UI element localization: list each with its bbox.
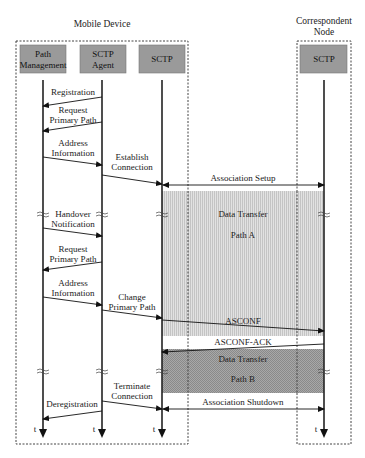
label-handover-notification-l2: Notification [51,219,95,229]
label-address-information-1-l1: Address [58,138,88,148]
label-request-primary-path-1-l1: Request [59,105,88,115]
label-address-information-2-l1: Address [58,278,88,288]
label-path-b-l1: Data Transfer [218,354,267,364]
svg-text:Agent: Agent [92,60,114,70]
label-establish-connection-l2: Connection [111,162,153,172]
label-path-a-l2: Path A [231,230,256,240]
entity-sctp-agent: SCTP Agent [80,45,126,73]
entity-sctp-correspondent: SCTP [300,45,347,73]
label-deregistration: Deregistration [46,399,98,409]
entity-sctp-mobile: SCTP [139,45,185,73]
label-establish-connection-l1: Establish [116,152,149,162]
correspondent-node-title-line1: Correspondent [296,16,352,26]
label-change-primary-path-l2: Primary Path [108,302,156,312]
mobile-device-title: Mobile Device [74,19,131,29]
sequence-diagram: Mobile Device Correspondent Node Path Ma… [0,0,365,458]
label-change-primary-path-l1: Change [118,292,146,302]
label-terminate-connection-l2: Connection [111,391,153,401]
arrow-establish-connection [102,175,162,184]
label-association-shutdown: Association Shutdown [202,397,284,407]
label-address-information-1-l2: Information [52,148,95,158]
svg-text:Path: Path [35,49,52,59]
label-request-primary-path-1-l2: Primary Path [49,115,97,125]
label-request-primary-path-2-l1: Request [59,244,88,254]
svg-text:t: t [315,424,318,434]
label-asconf: ASCONF [225,316,261,326]
time-arrowheads [39,429,328,438]
label-terminate-connection-l1: Terminate [114,381,150,391]
svg-text:SCTP: SCTP [92,49,114,59]
entity-path-management: Path Management [20,45,67,73]
svg-text:t: t [153,424,156,434]
label-path-b-l2: Path B [231,374,255,384]
svg-text:SCTP: SCTP [313,54,335,64]
arrow-handover-notification [43,228,102,236]
svg-text:SCTP: SCTP [151,54,173,64]
svg-text:Management: Management [20,60,67,70]
label-path-a-l1: Data Transfer [218,209,267,219]
correspondent-node-title-line2: Node [314,27,335,37]
svg-text:t: t [34,424,37,434]
time-labels: t t t t [34,424,318,434]
label-association-setup: Association Setup [210,173,276,183]
label-registration: Registration [51,87,95,97]
label-request-primary-path-2-l2: Primary Path [49,254,97,264]
label-asconf-ack: ASCONF-ACK [214,337,272,347]
arrow-address-information-2 [43,297,102,305]
arrow-deregistration [43,411,102,419]
label-address-information-2-l2: Information [52,288,95,298]
arrow-address-information-1 [43,157,102,165]
label-handover-notification-l1: Handover [55,209,91,219]
svg-text:t: t [93,424,96,434]
arrow-terminate-connection [102,401,162,409]
